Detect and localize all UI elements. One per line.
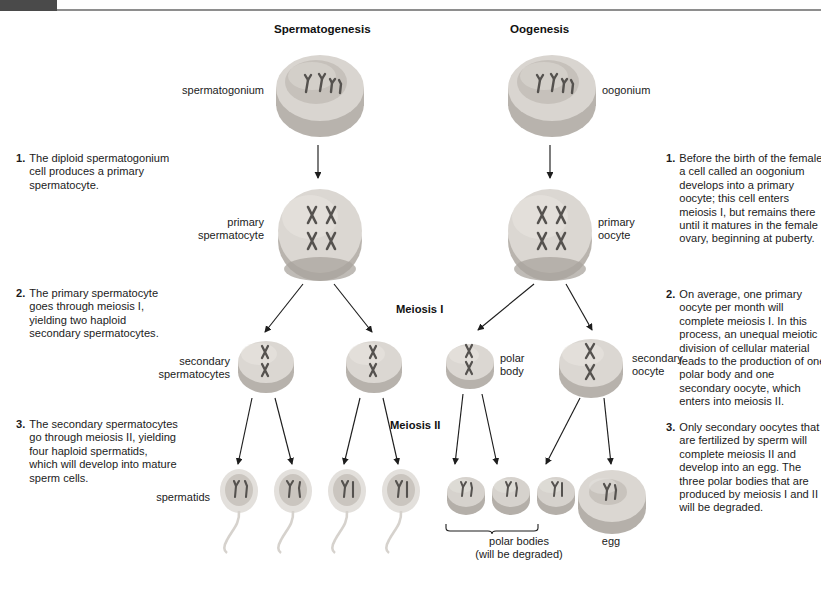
left-step-3: 3. The secondary spermatocytes go throug… bbox=[16, 418, 178, 485]
label-spermatids: spermatids bbox=[130, 491, 210, 504]
label-polar-body: polar body bbox=[500, 352, 550, 377]
cell-spermatid-2 bbox=[272, 468, 318, 554]
heading-oogenesis: Oogenesis bbox=[510, 22, 569, 35]
figure-canvas: Spermatogenesis Oogenesis Meiosis I Meio… bbox=[0, 0, 821, 596]
left-step-1-text: The diploid spermatogonium cell produces… bbox=[29, 152, 178, 192]
left-step-3-number: 3. bbox=[16, 418, 25, 485]
cell-spermatid-3 bbox=[326, 468, 372, 554]
left-step-2: 2. The primary spermatocyte goes through… bbox=[16, 287, 178, 341]
right-step-2-text: On average, one primary oocyte per month… bbox=[679, 288, 821, 409]
left-step-2-text: The primary spermatocyte goes through me… bbox=[29, 287, 178, 341]
cell-primary-oocyte bbox=[502, 183, 598, 287]
label-egg: egg bbox=[576, 535, 646, 548]
cell-polar-body-a bbox=[444, 472, 488, 520]
right-step-2: 2. On average, one primary oocyte per mo… bbox=[666, 288, 821, 409]
left-step-2-number: 2. bbox=[16, 287, 25, 341]
right-step-1-text: Before the birth of the female, a cell c… bbox=[679, 152, 821, 246]
cell-primary-spermatocyte bbox=[272, 183, 368, 287]
header-rule bbox=[57, 9, 821, 11]
right-step-3-number: 3. bbox=[666, 421, 675, 515]
cell-egg bbox=[574, 466, 650, 540]
phase-label-meiosis-2: Meiosis II bbox=[390, 419, 440, 431]
cell-polar-body-first bbox=[443, 338, 497, 396]
label-secondary-spermatocytes: secondary spermatocytes bbox=[140, 355, 230, 380]
cell-polar-body-b bbox=[489, 472, 533, 520]
cell-polar-body-c bbox=[534, 472, 578, 520]
right-step-1-number: 1. bbox=[666, 152, 675, 246]
left-step-1-number: 1. bbox=[16, 152, 25, 192]
cell-spermatid-4 bbox=[380, 468, 426, 554]
left-step-3-text: The secondary spermatocytes go through m… bbox=[29, 418, 178, 485]
right-step-1: 1. Before the birth of the female, a cel… bbox=[666, 152, 821, 246]
cell-secondary-spermatocyte-right bbox=[343, 336, 405, 398]
cell-spermatogonium bbox=[272, 48, 368, 144]
left-step-1: 1. The diploid spermatogonium cell produ… bbox=[16, 152, 178, 192]
heading-spermatogenesis: Spermatogenesis bbox=[274, 22, 371, 35]
right-step-3-text: Only secondary oocytes that are fertiliz… bbox=[679, 421, 821, 515]
label-oogonium: oogonium bbox=[602, 84, 692, 97]
right-step-3: 3. Only secondary oocytes that are ferti… bbox=[666, 421, 821, 515]
cell-secondary-oocyte bbox=[556, 334, 626, 402]
right-step-2-number: 2. bbox=[666, 288, 675, 409]
cell-oogonium bbox=[504, 48, 600, 144]
cell-secondary-spermatocyte-left bbox=[235, 336, 297, 398]
label-spermatogonium: spermatogonium bbox=[170, 84, 264, 97]
phase-label-meiosis-1: Meiosis I bbox=[396, 303, 443, 315]
header-dark-block bbox=[0, 0, 57, 11]
cell-spermatid-1 bbox=[218, 468, 264, 554]
label-primary-spermatocyte: primary spermatocyte bbox=[174, 216, 264, 241]
